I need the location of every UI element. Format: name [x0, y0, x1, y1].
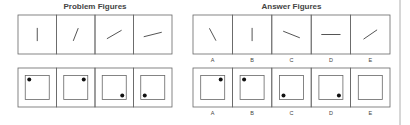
problem-row2-cell-1: [57, 68, 96, 107]
answer-square-figure-D-dot: [337, 94, 341, 98]
problem-row2-cell-3: [134, 68, 173, 107]
answer-row2-cell-2: [272, 68, 311, 107]
problem-square-figure-3-dot: [120, 94, 124, 98]
answer-square-figure-A-dot: [219, 78, 223, 82]
answer-row1-label-B: B: [247, 57, 257, 63]
answer-row1-label-E: E: [365, 57, 375, 63]
problem-square-figure-1-dot: [27, 78, 31, 82]
problem-line-figure-3: [107, 30, 122, 38]
answer-row2-label-C: C: [287, 110, 297, 116]
answer-row2-cell-3: [311, 68, 350, 107]
problem-line-figure-4: [144, 32, 162, 37]
answer-row2-cell-1: [232, 68, 271, 107]
answer-row1-label-C: C: [287, 57, 297, 63]
answer-row2-label-E: E: [365, 110, 375, 116]
answer-row2-label-D: D: [326, 110, 336, 116]
problem-square-figure-4-dot: [143, 94, 147, 98]
answer-line-figure-C: [283, 31, 300, 38]
answer-row1-label-D: D: [326, 57, 336, 63]
problem-line-figure-2: [73, 28, 78, 41]
answer-row2-cell-0: [193, 68, 232, 107]
answer-line-figure-A: [209, 28, 216, 40]
answer-row2-label-A: A: [208, 110, 218, 116]
answer-square-figure-E-inner-square: [358, 76, 382, 100]
problem-row2-cell-2: [95, 68, 134, 107]
problem-square-figure-2-dot: [82, 78, 86, 82]
answer-row2-label-B: B: [247, 110, 257, 116]
answer-row2-cell-4: [351, 68, 390, 107]
answer-square-figure-C-dot: [282, 94, 286, 98]
figure-canvas: [0, 0, 410, 125]
problem-row2-cell-0: [18, 68, 57, 107]
answer-line-figure-E: [364, 30, 378, 39]
answer-square-figure-B-dot: [242, 78, 246, 82]
answer-row1-label-A: A: [208, 57, 218, 63]
